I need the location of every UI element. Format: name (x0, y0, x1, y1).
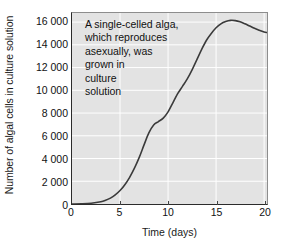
annotation-line: grown in (85, 58, 205, 71)
x-tick-mark (265, 201, 266, 205)
x-tick-label: 20 (259, 207, 271, 218)
y-tick-label: 6 000 (20, 131, 68, 142)
annotation-line: culture (85, 72, 205, 85)
y-tick-label: 0 (20, 200, 68, 211)
annotation-line: asexually, was (85, 45, 205, 58)
x-tick-mark (217, 201, 218, 205)
x-tick-mark (168, 201, 169, 205)
annotation-line: solution (85, 85, 205, 98)
chart-annotation: A single-celled alga,which reproducesase… (85, 18, 205, 98)
y-tick-label: 4 000 (20, 154, 68, 165)
y-tick-label: 2 000 (20, 177, 68, 188)
y-tick-label: 10 000 (20, 85, 68, 96)
x-tick-label: 10 (162, 207, 174, 218)
y-tick-label: 12 000 (20, 62, 68, 73)
y-axis-ticks: 02 0004 0006 0008 00010 00012 00014 0001… (14, 0, 68, 251)
plot-area: A single-celled alga,which reproducesase… (71, 12, 268, 205)
y-tick-label: 14 000 (20, 39, 68, 50)
x-axis-title: Time (days) (71, 226, 268, 238)
algal-growth-chart: Number of algal cells in culture solutio… (0, 0, 281, 251)
x-axis-ticks: 05101520 (71, 207, 268, 223)
y-tick-label: 8 000 (20, 108, 68, 119)
x-tick-label: 5 (117, 207, 123, 218)
x-tick-label: 0 (68, 207, 74, 218)
x-tick-mark (120, 201, 121, 205)
annotation-line: which reproduces (85, 31, 205, 44)
annotation-line: A single-celled alga, (85, 18, 205, 31)
x-tick-label: 15 (211, 207, 223, 218)
y-tick-label: 16 000 (20, 16, 68, 27)
